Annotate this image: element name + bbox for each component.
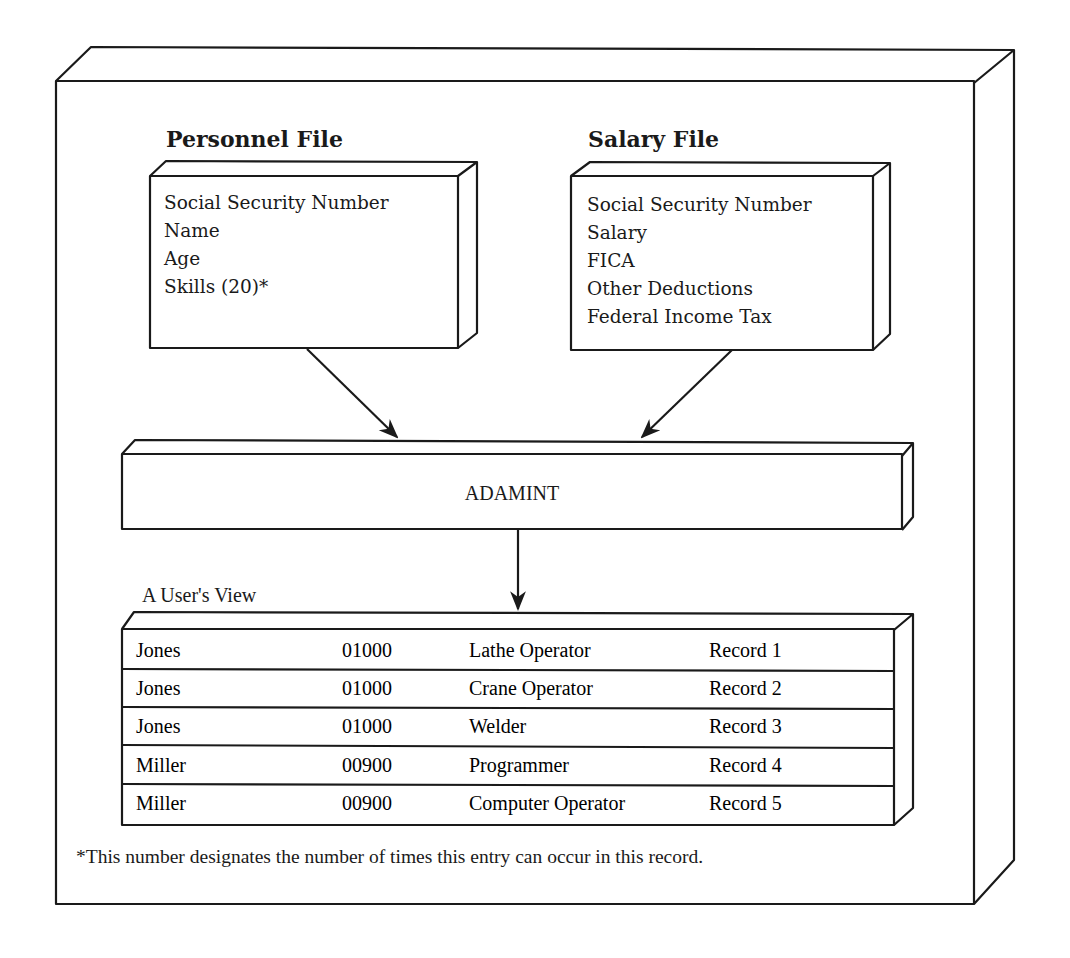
cell-salary: 01000 [342, 715, 392, 738]
personnel-field: Name [164, 217, 389, 245]
user-view-label: A User's View [142, 584, 256, 607]
table-row: Jones 01000 Crane Operator Record 2 [122, 671, 894, 707]
cell-skill: Crane Operator [469, 677, 593, 700]
cell-name: Jones [136, 639, 180, 662]
salary-file-title: Salary File [588, 126, 719, 152]
personnel-field: Social Security Number [164, 189, 389, 217]
salary-field: Social Security Number [587, 191, 812, 219]
cell-name: Jones [136, 715, 180, 738]
cell-skill: Computer Operator [469, 792, 625, 815]
cell-salary: 01000 [342, 639, 392, 662]
salary-field: FICA [587, 247, 812, 275]
arrow-personnel-to-adamint [307, 349, 397, 437]
personnel-file-title: Personnel File [166, 126, 343, 152]
cell-salary: 01000 [342, 677, 392, 700]
adamint-label: ADAMINT [122, 482, 902, 505]
personnel-field: Age [164, 245, 389, 273]
table-row: Miller 00900 Programmer Record 4 [122, 748, 894, 784]
cell-skill: Lathe Operator [469, 639, 591, 662]
cell-record: Record 2 [709, 677, 782, 700]
cell-skill: Programmer [469, 754, 569, 777]
cell-name: Jones [136, 677, 180, 700]
table-row: Jones 01000 Welder Record 3 [122, 709, 894, 745]
cell-salary: 00900 [342, 754, 392, 777]
salary-field: Other Deductions [587, 275, 812, 303]
salary-field: Salary [587, 219, 812, 247]
salary-field-list: Social Security Number Salary FICA Other… [587, 191, 812, 331]
arrow-salary-to-adamint [642, 350, 732, 437]
cell-skill: Welder [469, 715, 526, 738]
table-row: Jones 01000 Lathe Operator Record 1 [122, 633, 894, 669]
cell-record: Record 1 [709, 639, 782, 662]
personnel-field-list: Social Security Number Name Age Skills (… [164, 189, 389, 301]
cell-record: Record 4 [709, 754, 782, 777]
footnote: *This number designates the number of ti… [76, 846, 703, 868]
salary-field: Federal Income Tax [587, 303, 812, 331]
personnel-field: Skills (20)* [164, 273, 389, 301]
cell-salary: 00900 [342, 792, 392, 815]
cell-record: Record 5 [709, 792, 782, 815]
table-row: Miller 00900 Computer Operator Record 5 [122, 786, 894, 822]
cell-name: Miller [136, 792, 186, 815]
cell-record: Record 3 [709, 715, 782, 738]
cell-name: Miller [136, 754, 186, 777]
